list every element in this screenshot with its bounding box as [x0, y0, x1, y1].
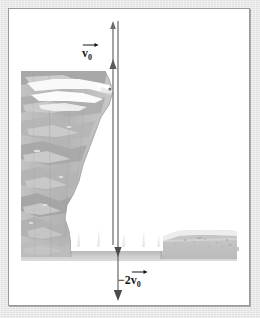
figure-root: v 0 −2 v 0 — [0, 0, 260, 318]
final-velocity-label: −2 v 0 — [118, 274, 141, 289]
figure-frame — [8, 8, 250, 306]
grass-tufts — [71, 205, 163, 251]
initial-velocity-label: v 0 — [82, 47, 92, 62]
scene-illustration — [9, 9, 249, 305]
velocity-symbol: v — [82, 46, 88, 60]
velocity-subscript: 0 — [88, 53, 92, 62]
scene-canvas — [9, 9, 249, 305]
vector-symbol-neg2v0: v — [131, 274, 137, 286]
right-ledge — [161, 230, 237, 259]
vector-arrow-accent-icon — [82, 42, 99, 47]
velocity-prefix: −2 — [118, 273, 131, 287]
velocity-subscript: 0 — [137, 280, 141, 289]
vector-symbol-v0: v — [82, 47, 88, 59]
velocity-symbol: v — [131, 273, 137, 287]
vector-arrow-accent-icon — [131, 269, 148, 274]
